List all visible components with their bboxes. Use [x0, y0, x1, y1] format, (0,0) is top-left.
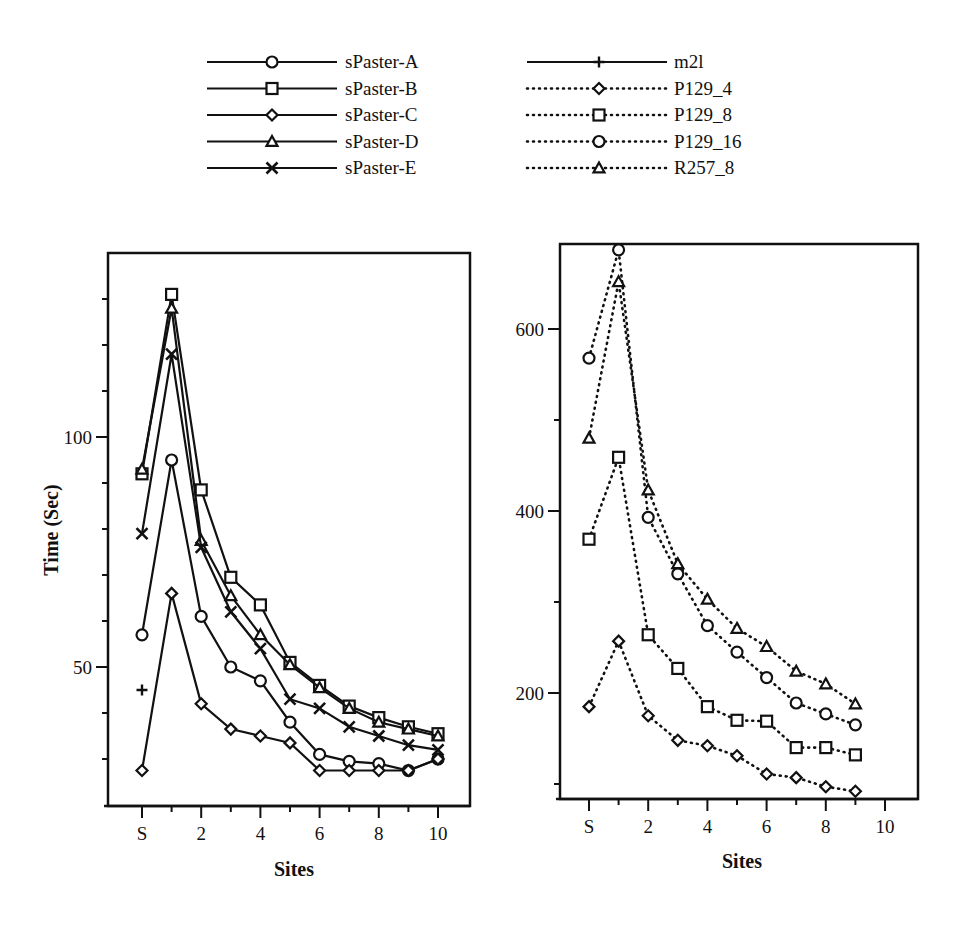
legend-label: sPaster-C	[345, 104, 417, 125]
legend-diamond-marker-icon	[267, 110, 278, 121]
data-point-circle-marker-icon	[196, 611, 207, 622]
legend-item-spaster-c: sPaster-C	[207, 104, 417, 125]
data-point-diamond-marker-icon	[761, 768, 772, 779]
data-point-plus-marker-icon	[137, 685, 148, 696]
legend-label: sPaster-A	[345, 51, 419, 72]
legend-label: sPaster-B	[345, 78, 417, 99]
x-axis-title-right: Sites	[722, 850, 762, 872]
legend-triangle-marker-icon	[267, 136, 278, 146]
data-point-triangle-marker-icon	[761, 641, 772, 651]
legend-label: sPaster-E	[345, 157, 416, 178]
series-m2l	[137, 685, 148, 696]
data-point-circle-marker-icon	[732, 647, 743, 658]
data-point-circle-marker-icon	[850, 719, 861, 730]
data-point-diamond-marker-icon	[255, 731, 266, 742]
data-point-x-marker-icon	[314, 703, 325, 714]
y-tick-label: 100	[64, 427, 93, 448]
data-point-triangle-marker-icon	[613, 276, 624, 286]
data-point-circle-marker-icon	[820, 708, 831, 719]
data-point-circle-marker-icon	[285, 717, 296, 728]
data-point-circle-marker-icon	[255, 675, 266, 686]
data-point-triangle-marker-icon	[732, 623, 743, 633]
x-axis-right: S246810	[556, 799, 918, 837]
series-line	[589, 641, 855, 791]
x-tick-label: 4	[256, 823, 266, 844]
x-tick-label: 8	[374, 823, 384, 844]
data-point-square-marker-icon	[584, 534, 595, 545]
data-point-square-marker-icon	[761, 716, 772, 727]
legend-item-spaster-b: sPaster-B	[207, 78, 417, 99]
series-spaster-a	[137, 455, 444, 777]
legend-label: P129_8	[674, 104, 732, 125]
y-axis-right: 200400600	[516, 319, 561, 784]
data-point-square-marker-icon	[820, 742, 831, 753]
data-point-x-marker-icon	[285, 694, 296, 705]
data-point-diamond-marker-icon	[702, 740, 713, 751]
data-point-circle-marker-icon	[643, 512, 654, 523]
legend-circle-marker-icon	[267, 57, 278, 68]
legend-label: sPaster-D	[345, 131, 419, 152]
legend-label: P129_16	[674, 131, 742, 152]
legend-label: P129_4	[674, 78, 733, 99]
series-spaster-c	[137, 588, 444, 776]
legend-item-p129_8: P129_8	[527, 104, 732, 125]
y-axis-left: 50100	[64, 299, 109, 759]
legend-item-spaster-a: sPaster-A	[207, 51, 419, 72]
legend-square-marker-icon	[594, 110, 605, 121]
data-point-square-marker-icon	[732, 715, 743, 726]
data-point-circle-marker-icon	[166, 455, 177, 466]
chart-right-p129-times: 200400600 S246810 Sites	[516, 244, 919, 872]
data-point-x-marker-icon	[225, 606, 236, 617]
data-point-x-marker-icon	[344, 721, 355, 732]
series-group-right	[584, 244, 861, 796]
y-tick-label: 400	[516, 501, 545, 522]
data-point-diamond-marker-icon	[791, 772, 802, 783]
data-point-circle-marker-icon	[613, 244, 624, 255]
data-point-diamond-marker-icon	[850, 786, 861, 797]
legend-triangle-marker-icon	[594, 163, 605, 173]
data-point-square-marker-icon	[850, 749, 861, 760]
figure: sPaster-AsPaster-BsPaster-CsPaster-DsPas…	[0, 0, 953, 926]
x-tick-label: S	[137, 823, 148, 844]
data-point-diamond-marker-icon	[166, 588, 177, 599]
data-point-diamond-marker-icon	[820, 781, 831, 792]
data-point-triangle-marker-icon	[225, 590, 236, 600]
x-tick-label: 10	[876, 816, 895, 837]
data-point-diamond-marker-icon	[732, 750, 743, 761]
legend-square-marker-icon	[267, 83, 278, 94]
data-point-triangle-marker-icon	[584, 433, 595, 443]
data-point-circle-marker-icon	[761, 672, 772, 683]
series-line	[142, 354, 438, 750]
series-group-left	[137, 289, 444, 776]
data-point-x-marker-icon	[373, 731, 384, 742]
series-p129_4	[584, 636, 861, 797]
data-point-square-marker-icon	[225, 572, 236, 583]
x-tick-label: 6	[315, 823, 325, 844]
legend-item-p129_4: P129_4	[527, 78, 733, 99]
data-point-diamond-marker-icon	[613, 636, 624, 647]
legend-label: R257_8	[674, 157, 734, 178]
y-tick-label: 200	[516, 683, 545, 704]
data-point-x-marker-icon	[255, 643, 266, 654]
data-point-square-marker-icon	[196, 484, 207, 495]
x-axis-left: S246810	[104, 806, 470, 844]
data-point-square-marker-icon	[255, 599, 266, 610]
data-point-square-marker-icon	[702, 701, 713, 712]
data-point-square-marker-icon	[613, 452, 624, 463]
data-point-circle-marker-icon	[791, 698, 802, 709]
series-r257_8	[584, 276, 861, 708]
series-line	[142, 308, 438, 736]
x-axis-title-left: Sites	[274, 858, 314, 880]
legend-item-r257_8: R257_8	[527, 157, 734, 178]
data-point-triangle-marker-icon	[702, 594, 713, 604]
y-tick-label: 600	[516, 319, 545, 340]
x-tick-label: 4	[703, 816, 713, 837]
data-point-diamond-marker-icon	[584, 701, 595, 712]
legend-diamond-marker-icon	[594, 83, 605, 94]
y-axis-title-left: Time (Sec)	[40, 484, 63, 575]
legend: sPaster-AsPaster-BsPaster-CsPaster-DsPas…	[207, 51, 742, 178]
legend-item-m2l: m2l	[527, 51, 704, 72]
data-point-circle-marker-icon	[584, 353, 595, 364]
legend-plus-marker-icon	[594, 57, 605, 68]
legend-item-p129_16: P129_16	[527, 131, 742, 152]
